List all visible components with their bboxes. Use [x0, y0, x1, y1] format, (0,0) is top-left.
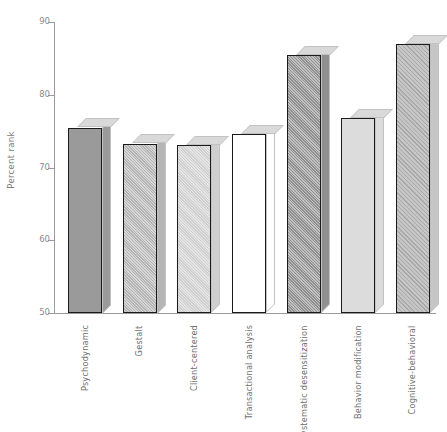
bar — [177, 22, 211, 313]
bar-side-face — [266, 125, 275, 313]
x-tick-label: Cognitive-behavioral — [386, 320, 440, 430]
y-axis-title: Percent rank — [0, 0, 22, 320]
bar-front-face — [232, 134, 266, 313]
x-tick-label: Gestalt — [113, 320, 167, 430]
y-axis-line — [54, 22, 55, 313]
bar — [123, 22, 157, 313]
y-tick-label: 90 — [39, 16, 50, 26]
bar — [68, 22, 102, 313]
bar-front-face — [123, 144, 157, 314]
bar-chart: Percent rank 5060708090 PsychodynamicGes… — [0, 0, 447, 432]
y-axis-title-text: Percent rank — [6, 131, 16, 188]
bar-front-face — [177, 145, 211, 313]
bar-top-face — [350, 109, 393, 118]
x-tick-label-text: Gestalt — [135, 325, 145, 356]
y-tick-label: 80 — [39, 89, 50, 99]
bar-top-face — [296, 46, 339, 55]
x-tick-label-text: Systematic desensitization — [299, 325, 309, 432]
x-tick-label-text: Transactional analysis — [244, 325, 254, 419]
x-tick-label: Transactional analysis — [222, 320, 276, 430]
bar-front-face — [341, 118, 375, 313]
x-tick-label: Psychodynamic — [58, 320, 112, 430]
bar-side-face — [102, 119, 111, 314]
bar-top-face — [77, 118, 120, 127]
x-tick-label: Systematic desensitization — [277, 320, 331, 430]
x-tick-label-text: Cognitive-behavioral — [408, 325, 418, 414]
bar — [287, 22, 321, 313]
bar-side-face — [375, 109, 384, 313]
bar-side-face — [211, 136, 220, 313]
bar-top-face — [186, 136, 229, 145]
bar-top-face — [132, 134, 175, 143]
x-tick-label: Client-centered — [167, 320, 221, 430]
bar-side-face — [430, 35, 439, 313]
bar-front-face — [287, 55, 321, 313]
plot-area: 5060708090 — [54, 22, 436, 313]
bar-front-face — [396, 44, 430, 313]
bar-front-face — [68, 128, 102, 314]
bar-side-face — [157, 135, 166, 314]
bar-top-face — [405, 35, 447, 44]
bar-top-face — [241, 125, 284, 134]
bar — [341, 22, 375, 313]
y-tick-label: 50 — [39, 307, 50, 317]
bar — [396, 22, 430, 313]
x-axis-line — [54, 313, 436, 314]
y-tick-label: 70 — [39, 162, 50, 172]
x-tick-label-text: Client-centered — [189, 325, 199, 391]
bar — [232, 22, 266, 313]
x-tick-label-text: Behavior modification — [353, 325, 363, 419]
x-tick-label-text: Psychodynamic — [80, 325, 90, 391]
x-tick-label: Behavior modification — [331, 320, 385, 430]
y-tick-label: 60 — [39, 234, 50, 244]
bar-side-face — [321, 46, 330, 313]
